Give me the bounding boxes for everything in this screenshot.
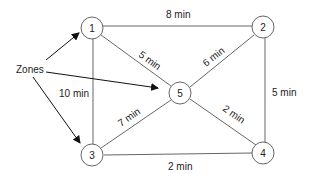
node-5-label: 5 xyxy=(177,88,183,99)
zone-arrow-5 xyxy=(46,72,158,88)
node-5: 5 xyxy=(169,82,191,104)
node-4: 4 xyxy=(252,142,274,164)
network-diagram: Zones 8 min 5 min 6 min 10 min 5 min 7 m… xyxy=(0,0,312,181)
edge-label-2-4: 5 min xyxy=(272,87,296,98)
edge-3-4 xyxy=(104,153,252,155)
node-2: 2 xyxy=(252,16,274,38)
edge-2-5 xyxy=(190,35,254,87)
edge-label-1-5: 5 min xyxy=(137,49,163,72)
zone-arrow-3 xyxy=(33,77,80,143)
node-2-label: 2 xyxy=(260,22,266,33)
zone-arrow-1 xyxy=(46,33,79,60)
edge-5-4 xyxy=(190,99,256,145)
edge-label-1-2: 8 min xyxy=(166,9,190,20)
edge-label-3-4: 2 min xyxy=(168,161,192,172)
node-4-label: 4 xyxy=(260,148,266,159)
edge-label-3-5: 7 min xyxy=(116,106,142,129)
edge-label-5-4: 2 min xyxy=(221,103,247,126)
zones-label: Zones xyxy=(16,64,44,75)
edge-label-2-5: 6 min xyxy=(200,45,226,69)
node-1: 1 xyxy=(81,17,103,39)
node-3-label: 3 xyxy=(89,150,95,161)
node-1-label: 1 xyxy=(89,23,95,34)
node-3: 3 xyxy=(81,144,103,166)
edge-label-1-3: 10 min xyxy=(59,88,89,99)
